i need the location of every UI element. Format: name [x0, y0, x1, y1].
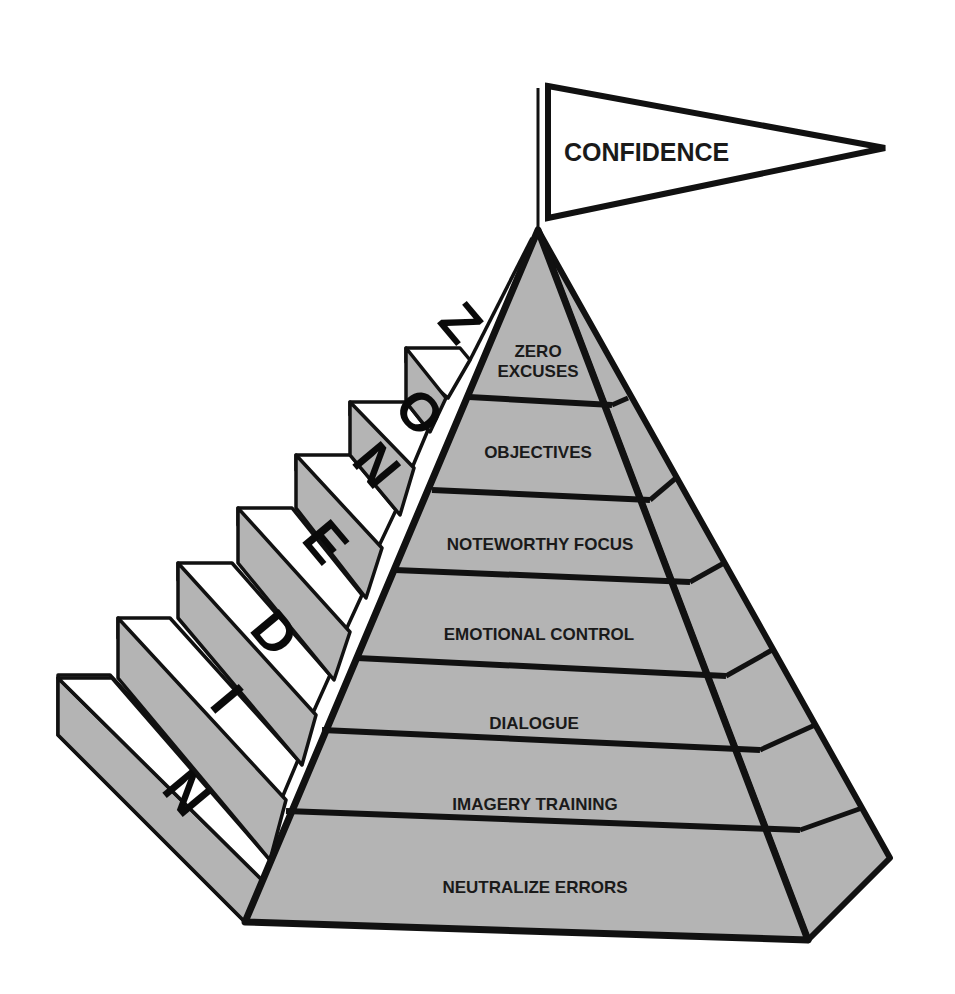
flag-label: CONFIDENCE: [564, 138, 729, 166]
tier-label-imagery-training: IMAGERY TRAINING: [452, 795, 617, 814]
flag: CONFIDENCE: [538, 86, 885, 232]
tier-label-zero-excuses-1: ZERO: [514, 342, 561, 361]
tier-label-dialogue: DIALOGUE: [489, 714, 579, 733]
tier-label-neutralize-errors: NEUTRALIZE ERRORS: [442, 878, 627, 897]
tier-label-objectives: OBJECTIVES: [484, 443, 592, 462]
tier-label-zero-excuses-2: EXCUSES: [497, 362, 578, 381]
tier-label-emotional-control: EMOTIONAL CONTROL: [444, 625, 634, 644]
tier-label-noteworthy-focus: NOTEWORTHY FOCUS: [447, 535, 634, 554]
pyramid-diagram: N I D E N O Z ZE: [0, 0, 955, 994]
stair-letter-7: Z: [428, 291, 495, 355]
